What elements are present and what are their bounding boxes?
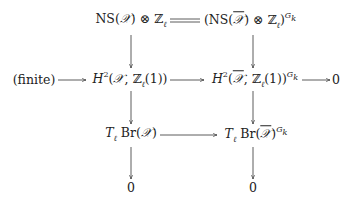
diagram-arrows bbox=[0, 0, 359, 200]
node-zero-right: 0 bbox=[332, 74, 340, 87]
node-ns-x: NS(𝒳) ⊗ ℤℓ bbox=[95, 13, 166, 29]
node-h2-x: H2(𝒳, ℤℓ(1)) bbox=[93, 71, 168, 89]
node-tbr-xbar: Tℓ Br(𝒳)Gk bbox=[225, 126, 288, 144]
node-finite: (finite) bbox=[13, 74, 56, 87]
node-zero-left-bottom: 0 bbox=[127, 182, 135, 195]
node-zero-right-bottom: 0 bbox=[249, 182, 257, 195]
node-ns-xbar: (NS(𝒳) ⊗ ℤℓ)Gk bbox=[204, 12, 296, 30]
node-tbr-x: Tℓ Br(𝒳) bbox=[105, 127, 157, 143]
node-h2-xbar: H2(𝒳, ℤℓ(1))Gk bbox=[212, 71, 298, 89]
